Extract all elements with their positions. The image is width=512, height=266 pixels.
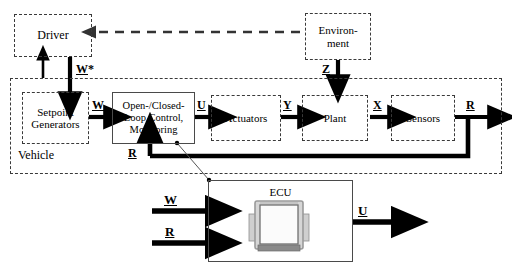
block-plant-label: Plant [323,112,348,124]
block-plant[interactable]: Plant [302,95,368,141]
block-environment[interactable]: Environ- ment [305,13,371,60]
block-setpoint-label-line2: Generators [30,118,80,130]
signal-label-w-ecu: W [164,192,177,208]
block-ecu-label: ECU [269,186,293,198]
block-sensors[interactable]: Sensors [391,95,455,141]
diagram-canvas: Driver (dashed, pointing left) --> Vehic… [0,0,512,266]
block-actuators-label: Actuators [224,112,269,124]
block-actuators[interactable]: Actuators [211,95,281,141]
signal-label-x: X [373,98,382,113]
signal-label-r-ecu: R [165,224,174,240]
block-sensors-label: Sensors [405,112,441,124]
block-control-monitoring[interactable]: Open-/Closed- Loop Control, Monitoring [112,92,195,144]
block-control-label-line3: Monitoring [129,124,179,136]
signal-label-u-ecu: U [358,203,367,219]
block-driver[interactable]: Driver [14,14,92,57]
block-setpoint-label-line1: Setpoint [36,106,75,118]
signal-label-u-vehicle: U [197,98,206,113]
signal-label-r-feedback: R [128,146,137,161]
block-environment-label-line2: ment [326,37,350,49]
block-environment-label-line1: Environ- [317,24,358,36]
block-vehicle-label: Vehicle [18,148,54,163]
ecu-device-icon [248,198,310,256]
signal-label-wstar: W* [76,62,94,77]
signal-label-z: Z [322,62,330,77]
block-control-label-line2: Loop Control, [123,112,185,124]
block-setpoint-generators[interactable]: Setpoint Generators [22,92,89,144]
block-control-label-line1: Open-/Closed- [122,100,186,112]
signal-label-y: Y [283,98,292,113]
signal-label-w-vehicle: W [92,98,104,113]
signal-label-r-sensors: R [466,98,475,113]
block-driver-label: Driver [36,29,69,42]
